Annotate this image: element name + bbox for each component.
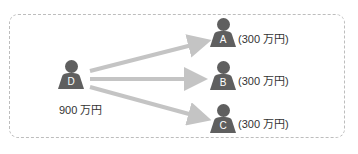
target-c-amount-label: (300 万円) [238, 115, 289, 131]
person-c: C [210, 104, 236, 134]
person-head-icon [217, 61, 230, 74]
person-head-icon [217, 104, 230, 117]
arrow-to-c [90, 87, 200, 117]
person-head-icon [65, 60, 78, 73]
person-letter: C [210, 120, 236, 132]
person-d: D [58, 60, 84, 90]
person-a: A [210, 18, 236, 48]
person-letter: B [210, 77, 236, 89]
target-b-amount-label: (300 万円) [238, 72, 289, 88]
person-head-icon [217, 18, 230, 31]
target-a-amount-label: (300 万円) [238, 30, 289, 46]
arrow-to-a [90, 43, 200, 71]
person-b: B [210, 61, 236, 91]
person-letter: D [58, 76, 84, 88]
distribution-arrows [0, 0, 358, 154]
person-letter: A [210, 34, 236, 46]
source-amount-label: 900 万円 [59, 101, 102, 117]
